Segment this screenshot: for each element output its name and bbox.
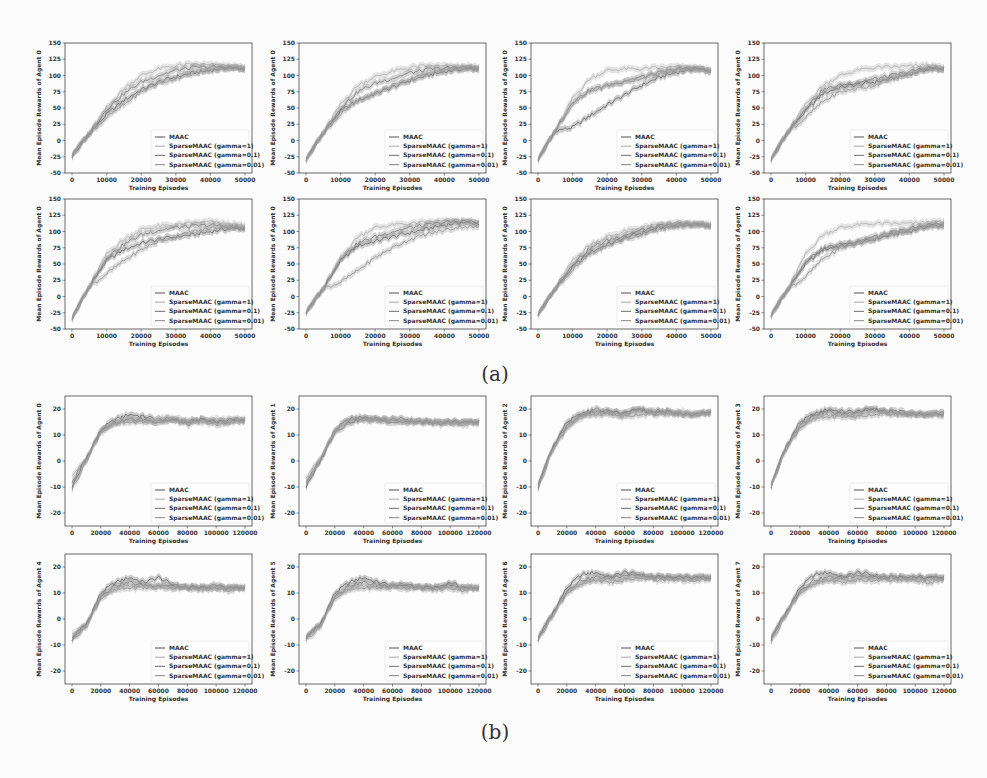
chart-panel-a4: -50-250255075100125150010000200003000040… [727,40,959,192]
legend-entry: SparseMAAC (gamma=1) [169,653,254,661]
y-axis-label: Mean Episode Rewards of Agent 0 [501,206,509,321]
x-tick-label: 20000 [597,176,618,183]
x-tick-label: 100000 [670,687,695,694]
y-tick-label: -10 [749,641,760,648]
x-tick-label: 120000 [698,687,723,694]
legend-entry: SparseMAAC (gamma=0.1) [169,662,260,670]
legend-entry: MAAC [403,289,423,296]
chart-panel-a6: -50-250255075100125150010000200003000040… [262,196,494,348]
x-tick-label: 0 [536,529,540,536]
x-tick-label: 40000 [200,176,221,183]
y-tick-label: 10 [53,589,61,596]
x-tick-label: 0 [304,529,308,536]
legend-entry: MAAC [635,133,655,140]
legend-entry: MAAC [868,133,888,140]
y-tick-label: 0 [57,457,61,464]
x-tick-label: 50000 [469,176,490,183]
y-tick-label: -25 [516,309,527,316]
legend-entry: SparseMAAC (gamma=1) [868,298,953,306]
y-tick-label: 25 [519,276,527,283]
chart-panel-a8: -50-250255075100125150010000200003000040… [727,196,959,348]
legend-entry: SparseMAAC (gamma=0.1) [635,307,726,315]
y-tick-label: 50 [287,104,295,111]
legend: MAACSparseMAAC (gamma=1)SparseMAAC (gamm… [385,483,498,523]
legend-entry: MAAC [403,133,423,140]
y-tick-label: 50 [53,104,61,111]
x-axis-label: Training Episodes [363,340,423,348]
x-tick-label: 80000 [876,529,897,536]
x-tick-label: 10000 [330,332,351,339]
chart-panel-b1: -20-100102002000040000600008000010000012… [28,393,260,545]
x-tick-label: 40000 [666,176,687,183]
y-tick-label: 0 [523,293,527,300]
x-tick-label: 10000 [330,176,351,183]
y-tick-label: -20 [284,509,295,516]
y-tick-label: 25 [752,276,760,283]
legend-entry: SparseMAAC (gamma=0.1) [635,504,726,512]
legend-entry: SparseMAAC (gamma=0.01) [403,161,498,169]
legend-entry: SparseMAAC (gamma=0.1) [169,151,260,159]
legend-entry: SparseMAAC (gamma=1) [635,142,720,150]
y-tick-label: 0 [57,137,61,144]
chart-panel-a3: -50-250255075100125150010000200003000040… [494,40,726,192]
legend-entry: SparseMAAC (gamma=0.1) [868,307,959,315]
legend-entry: SparseMAAC (gamma=0.01) [169,514,264,522]
legend-entry: MAAC [868,644,888,651]
x-tick-label: 40000 [585,687,606,694]
x-tick-label: 80000 [177,687,198,694]
legend: MAACSparseMAAC (gamma=1)SparseMAAC (gamm… [151,286,264,326]
x-tick-label: 0 [536,332,540,339]
x-tick-label: 40000 [666,332,687,339]
x-tick-label: 40000 [899,332,920,339]
x-tick-label: 20000 [90,529,111,536]
y-tick-label: 25 [287,276,295,283]
y-tick-label: -10 [284,641,295,648]
chart-panel-b3: -20-100102002000040000600008000010000012… [494,393,726,545]
x-tick-label: 40000 [818,687,839,694]
x-tick-label: 60000 [148,529,169,536]
legend-entry: SparseMAAC (gamma=1) [169,142,254,150]
y-axis-label: Mean Episode Rewards of Agent 4 [35,561,43,676]
x-tick-label: 120000 [232,529,257,536]
legend-entry: SparseMAAC (gamma=0.1) [868,662,959,670]
x-axis-label: Training Episodes [129,340,189,348]
y-tick-label: 0 [756,457,760,464]
x-axis-label: Training Episodes [595,340,655,348]
legend-entry: MAAC [635,289,655,296]
y-tick-label: 20 [752,563,760,570]
legend-entry: SparseMAAC (gamma=0.01) [635,161,730,169]
y-axis-label: Mean Episode Rewards of Agent 0 [501,50,509,165]
legend: MAACSparseMAAC (gamma=1)SparseMAAC (gamm… [151,483,264,523]
x-tick-label: 40000 [353,687,374,694]
chart-panel-a7: -50-250255075100125150010000200003000040… [494,196,726,348]
x-tick-label: 0 [304,332,308,339]
chart-panel-b5: -20-100102002000040000600008000010000012… [28,551,260,703]
legend: MAACSparseMAAC (gamma=1)SparseMAAC (gamm… [617,286,730,326]
x-axis-label: Training Episodes [828,340,888,348]
legend-entry: SparseMAAC (gamma=0.1) [169,504,260,512]
legend-entry: SparseMAAC (gamma=0.1) [868,504,959,512]
x-tick-label: 20000 [556,529,577,536]
y-axis-label: Mean Episode Rewards of Agent 3 [734,403,742,518]
x-tick-label: 40000 [899,176,920,183]
x-axis-label: Training Episodes [129,184,189,192]
y-tick-label: -25 [50,309,61,316]
y-tick-label: 150 [48,39,61,46]
y-tick-label: -20 [284,667,295,674]
x-tick-label: 20000 [789,529,810,536]
y-tick-label: -25 [516,153,527,160]
y-axis-label: Mean Episode Rewards of Agent 0 [269,206,277,321]
y-tick-label: -10 [284,483,295,490]
x-tick-label: 100000 [670,529,695,536]
x-tick-label: 30000 [399,176,420,183]
x-tick-label: 30000 [864,332,885,339]
x-axis-label: Training Episodes [363,184,423,192]
y-tick-label: -10 [516,641,527,648]
x-tick-label: 120000 [931,529,956,536]
x-tick-label: 40000 [434,176,455,183]
y-tick-label: 125 [514,55,527,62]
x-tick-label: 80000 [643,529,664,536]
y-tick-label: 75 [53,88,61,95]
y-tick-label: -50 [749,325,760,332]
chart-panel-a1: -50-250255075100125150010000200003000040… [28,40,260,192]
